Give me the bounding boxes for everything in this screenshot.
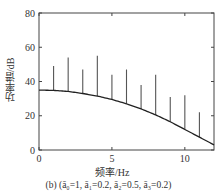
y-tick-label: 20: [25, 110, 35, 121]
y-tick-label: 60: [25, 42, 35, 53]
y-tick-label: 80: [25, 8, 35, 19]
y-axis-label: 功率谱/dB: [3, 45, 15, 115]
x-axis-ticks: 0510: [37, 13, 190, 164]
y-tick-label: 40: [25, 76, 35, 87]
x-tick-label: 10: [180, 153, 190, 164]
y-tick-label: 0: [30, 145, 35, 156]
x-tick-label: 0: [37, 153, 42, 164]
figure-caption: (b) (ā₀=1, ā₁=0.2, ā₂=0.5, ā₃=0.2): [0, 180, 217, 190]
x-tick-label: 5: [109, 153, 114, 164]
x-axis-label: 频率/Hz: [95, 164, 129, 179]
